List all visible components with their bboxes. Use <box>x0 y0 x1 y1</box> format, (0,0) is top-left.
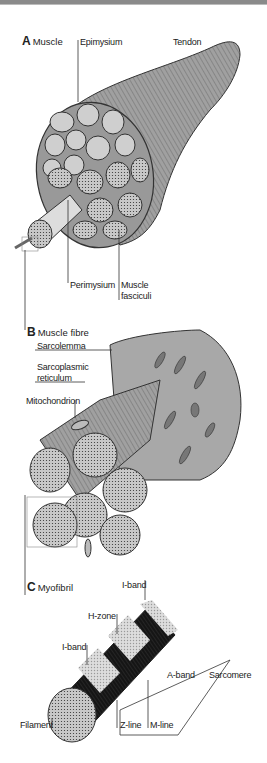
label-a-band: A-band <box>167 670 195 680</box>
label-m-line: M-line <box>150 720 173 730</box>
panel-b-title: BMuscle fibre <box>27 325 89 339</box>
panel-letter: C <box>27 580 36 594</box>
panel-c-title: CMyofibril <box>27 580 73 594</box>
label-h-zone: H-zone <box>88 611 116 621</box>
panel-letter: A <box>22 34 31 48</box>
label-filament: Filament <box>20 720 53 730</box>
label-sarcoplasmic-2: reticulum <box>37 373 72 383</box>
label-sarcolemma: Sarcolemma <box>37 341 86 351</box>
panel-letter: B <box>27 325 36 339</box>
panel-title: Muscle fibre <box>38 327 89 338</box>
muscle-drawing <box>15 42 240 257</box>
panel-title: Myofibril <box>38 582 73 593</box>
label-tendon: Tendon <box>173 37 201 47</box>
label-muscle-fasciculi-1: Muscle <box>121 280 148 290</box>
label-i-band-left: I-band <box>62 642 86 652</box>
panel-a-title: AMuscle <box>22 34 63 48</box>
label-sarcoplasmic-1: Sarcoplasmic <box>37 362 89 372</box>
myofibril-drawing <box>48 580 230 742</box>
label-sarcomere: Sarcomere <box>209 670 251 680</box>
label-epimysium: Epimysium <box>80 37 122 47</box>
label-i-band-top: I-band <box>122 580 146 590</box>
label-perimysium: Perimysium <box>70 280 115 290</box>
panel-title: Muscle <box>33 36 63 47</box>
label-mitochondrion: Mitochondrion <box>26 396 80 406</box>
label-z-line: Z-line <box>120 720 141 730</box>
label-muscle-fasciculi-2: fasciculi <box>121 291 151 301</box>
